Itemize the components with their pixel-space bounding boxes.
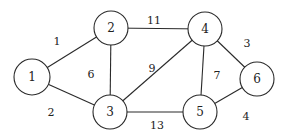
node-6: 6	[240, 62, 274, 96]
node-1-label: 1	[28, 70, 36, 84]
weight-2-3: 6	[88, 68, 95, 81]
node-6-label: 6	[253, 72, 261, 86]
edges	[32, 28, 257, 112]
weight-4-6: 3	[244, 37, 251, 50]
weight-5-6: 4	[243, 110, 250, 123]
weight-1-3: 2	[48, 106, 55, 119]
node-4-label: 4	[201, 22, 209, 36]
node-5: 5	[183, 95, 217, 129]
node-5-label: 5	[196, 105, 204, 119]
weight-4-5: 7	[214, 69, 221, 82]
node-3-label: 3	[106, 105, 114, 119]
node-1: 1	[14, 59, 50, 95]
weight-3-4: 9	[149, 62, 156, 75]
weight-2-4: 11	[147, 14, 161, 27]
graph-diagram: 1 2 6 11 9 13 7 3 4 1 2 3 4 5	[0, 0, 289, 137]
weight-1-2: 1	[54, 35, 61, 48]
weight-3-5: 13	[150, 119, 164, 132]
node-2-label: 2	[107, 21, 115, 35]
node-3: 3	[93, 95, 127, 129]
node-2: 2	[94, 11, 128, 45]
node-4: 4	[188, 12, 222, 46]
